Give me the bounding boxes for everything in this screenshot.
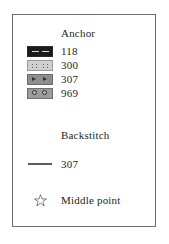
dash-mark	[32, 51, 39, 53]
arrow-mark	[32, 77, 36, 81]
section-heading-anchor: Anchor	[61, 27, 95, 39]
legend-label-300: 300	[61, 58, 155, 72]
circle-mark	[32, 90, 37, 95]
dot-mark	[36, 67, 37, 68]
swatch-cell-300	[13, 58, 61, 72]
section-heading-backstitch: Backstitch	[61, 129, 109, 141]
legend-row-969: 969	[13, 86, 155, 100]
dot-mark	[36, 64, 37, 65]
swatch-cell-middle-point	[13, 193, 61, 207]
circle-block-symbol	[27, 88, 53, 99]
circle-mark	[42, 90, 47, 95]
legend-row-backstitch-307: 307	[13, 157, 155, 171]
line-symbol	[28, 163, 52, 165]
dot-mark	[32, 64, 33, 65]
legend-label-307: 307	[61, 72, 155, 86]
dot-mark	[43, 64, 44, 65]
legend-label-969: 969	[61, 86, 155, 100]
legend-label-backstitch-307: 307	[61, 157, 155, 171]
legend-row-middle-point: Middle point	[13, 193, 155, 207]
dot-mark	[47, 64, 48, 65]
dot-mark	[47, 67, 48, 68]
swatch-cell-307	[13, 72, 61, 86]
legend-label-118: 118	[61, 44, 155, 58]
dash-block-symbol	[27, 46, 53, 57]
legend-row-118: 118	[13, 44, 155, 58]
legend-row-300: 300	[13, 58, 155, 72]
dash-mark	[42, 51, 49, 53]
swatch-cell-969	[13, 86, 61, 100]
legend-body: Anchor 118	[13, 15, 155, 226]
dot-mark	[43, 67, 44, 68]
swatch-cell-backstitch	[13, 157, 61, 171]
legend-label-middle-point: Middle point	[61, 193, 155, 207]
dot-mark	[32, 67, 33, 68]
swatch-cell-118	[13, 44, 61, 58]
arrow-mark	[43, 77, 47, 81]
arrow-block-symbol	[27, 74, 53, 85]
dotted-block-symbol	[27, 60, 53, 71]
legend-panel: Anchor 118	[12, 14, 156, 227]
legend-row-307: 307	[13, 72, 155, 86]
star-icon	[34, 194, 47, 207]
